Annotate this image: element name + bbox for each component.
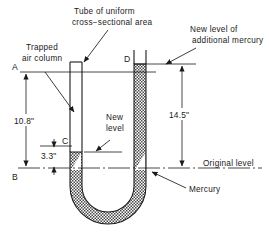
mercury-label: Mercury [189, 185, 221, 194]
original-level-label: Original level [203, 159, 254, 168]
mercury-fill-path [70, 64, 146, 224]
point-label-b: B [12, 172, 18, 182]
annotation-tube-note: Tube of uniform cross−sectional area [72, 7, 153, 27]
new-level-line-2: level [106, 124, 124, 133]
dimension-left-small: 3.3" [41, 139, 56, 175]
additional-mercury-line-2: additional mercury [192, 36, 264, 45]
dimension-left-total: 10.8" [11, 74, 41, 166]
leader-mercury [152, 172, 186, 188]
point-label-c: C [62, 136, 68, 146]
dimension-label-14-5: 14.5" [169, 110, 189, 120]
dimension-right-total: 14.5" [167, 66, 199, 166]
u-tube-figure: 10.8" 3.3" 14.5" A B C D [0, 0, 269, 239]
leader-additional-mercury [166, 48, 196, 64]
trapped-air-line-1: Trapped [26, 43, 58, 52]
manometer-diagram: 10.8" 3.3" 14.5" A B C D [0, 0, 269, 239]
additional-mercury-line-1: New level of [190, 25, 238, 34]
mercury-body [70, 64, 146, 224]
annotation-new-level: New level [106, 113, 124, 133]
new-level-line-1: New [106, 113, 123, 122]
trapped-air-line-2: air column [22, 54, 62, 63]
tube-note-line-2: cross−sectional area [72, 18, 153, 27]
point-label-d: D [124, 54, 130, 64]
leader-new-level [96, 140, 110, 151]
dimension-label-3-3: 3.3" [41, 151, 56, 161]
tube-note-line-1: Tube of uniform [74, 7, 135, 16]
annotation-trapped-air: Trapped air column [22, 43, 62, 63]
dimension-label-10-8: 10.8" [14, 116, 34, 126]
point-label-a: A [12, 62, 18, 72]
leader-tube-note [84, 30, 108, 62]
annotation-additional-mercury: New level of additional mercury [190, 25, 264, 45]
